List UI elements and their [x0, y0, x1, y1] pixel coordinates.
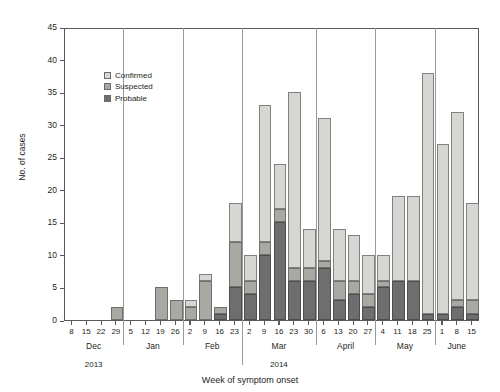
- legend-item-confirmed: Confirmed: [104, 70, 153, 80]
- bar-may-11: [392, 196, 405, 320]
- bar-segment-confirmed: [229, 203, 242, 242]
- month-separator: [435, 28, 436, 345]
- bar-segment-probable: [348, 294, 361, 320]
- bar-segment-confirmed: [422, 73, 435, 314]
- bar-segment-probable: [318, 268, 331, 320]
- bar-segment-suspected: [259, 242, 272, 255]
- bar-segment-suspected: [333, 281, 346, 301]
- y-tick-label: 20: [48, 185, 57, 195]
- y-tick-label: 45: [48, 22, 57, 32]
- bar-segment-suspected: [214, 307, 227, 314]
- bar-segment-suspected: [466, 300, 479, 313]
- x-tick-mark: [441, 321, 442, 325]
- bar-segment-confirmed: [244, 255, 257, 281]
- bar-segment-probable: [274, 222, 287, 320]
- month-separator: [316, 28, 317, 345]
- bar-june-8: [451, 112, 464, 320]
- x-tick-mark: [130, 321, 131, 325]
- x-tick-mark: [338, 321, 339, 325]
- x-tick-label: 15: [463, 327, 481, 336]
- bar-segment-suspected: [348, 281, 361, 294]
- bar-feb-23: [229, 203, 242, 320]
- bar-segment-suspected: [229, 242, 242, 288]
- bar-segment-suspected: [155, 287, 168, 320]
- year-label: 2013: [64, 360, 124, 369]
- y-tick-label: 40: [48, 55, 57, 65]
- month-label: Dec: [64, 341, 124, 351]
- bar-segment-suspected: [111, 307, 124, 320]
- x-tick-mark: [278, 321, 279, 325]
- x-tick-mark: [367, 321, 368, 325]
- x-tick-mark: [175, 321, 176, 325]
- bar-segment-probable: [259, 255, 272, 320]
- x-tick-mark: [71, 321, 72, 325]
- x-tick-mark: [471, 321, 472, 325]
- bar-mar-9: [259, 105, 272, 320]
- bar-june-1: [437, 144, 450, 320]
- bar-may-4: [377, 255, 390, 320]
- month-label: April: [316, 341, 376, 351]
- bar-segment-confirmed: [185, 300, 198, 307]
- bar-segment-confirmed: [407, 196, 420, 281]
- x-tick-mark: [397, 321, 398, 325]
- bar-mar-16: [274, 164, 287, 320]
- x-tick-mark: [264, 321, 265, 325]
- bar-segment-probable: [451, 307, 464, 320]
- month-separator: [375, 28, 376, 345]
- bar-feb-2: [185, 300, 198, 320]
- x-tick-mark: [323, 321, 324, 325]
- bar-segment-confirmed: [377, 255, 390, 281]
- y-tick-label: 15: [48, 217, 57, 227]
- bar-may-25: [422, 73, 435, 320]
- y-tick-label: 10: [48, 250, 57, 260]
- x-tick-mark: [204, 321, 205, 325]
- bar-segment-probable: [422, 314, 435, 321]
- bar-feb-9: [199, 274, 212, 320]
- bar-segment-probable: [214, 314, 227, 321]
- x-tick-mark: [456, 321, 457, 325]
- x-tick-mark: [353, 321, 354, 325]
- bar-jan-26: [170, 300, 183, 320]
- bar-segment-suspected: [451, 300, 464, 307]
- legend-swatch-confirmed-icon: [104, 72, 111, 79]
- month-label: Jan: [123, 341, 183, 351]
- x-tick-mark: [382, 321, 383, 325]
- month-label: Feb: [182, 341, 242, 351]
- bar-segment-suspected: [274, 209, 287, 222]
- epidemic-curve-figure: No. of cases 051015202530354045 81522295…: [0, 0, 500, 392]
- x-tick-mark: [427, 321, 428, 325]
- bar-segment-probable: [437, 314, 450, 321]
- bar-april-13: [333, 229, 346, 320]
- x-tick-mark: [115, 321, 116, 325]
- x-tick-mark: [145, 321, 146, 325]
- bar-segment-confirmed: [318, 118, 331, 261]
- bar-june-15: [466, 203, 479, 320]
- month-separator: [183, 28, 184, 345]
- bar-segment-confirmed: [199, 274, 212, 281]
- bar-segment-confirmed: [451, 112, 464, 301]
- bar-segment-probable: [303, 281, 316, 320]
- bar-segment-probable: [362, 307, 375, 320]
- legend-swatch-probable-icon: [104, 95, 111, 102]
- bar-segment-suspected: [362, 294, 375, 307]
- bar-april-6: [318, 118, 331, 320]
- y-tick-label: 30: [48, 120, 57, 130]
- bar-april-20: [348, 235, 361, 320]
- bar-segment-probable: [377, 287, 390, 320]
- x-axis-title: Week of symptom onset: [0, 375, 500, 385]
- bar-mar-30: [303, 229, 316, 320]
- y-tick-label: 5: [52, 282, 57, 292]
- month-separator: [242, 28, 243, 365]
- bar-segment-probable: [466, 314, 479, 321]
- bar-may-18: [407, 196, 420, 320]
- bar-segment-probable: [333, 300, 346, 320]
- bar-segment-suspected: [377, 281, 390, 288]
- x-tick-mark: [101, 321, 102, 325]
- bar-segment-suspected: [288, 268, 301, 281]
- x-tick-mark: [412, 321, 413, 325]
- bar-mar-23: [288, 92, 301, 320]
- bar-segment-suspected: [185, 307, 198, 320]
- bar-segment-suspected: [170, 300, 183, 320]
- x-tick-mark: [160, 321, 161, 325]
- legend-swatch-suspected-icon: [104, 83, 111, 90]
